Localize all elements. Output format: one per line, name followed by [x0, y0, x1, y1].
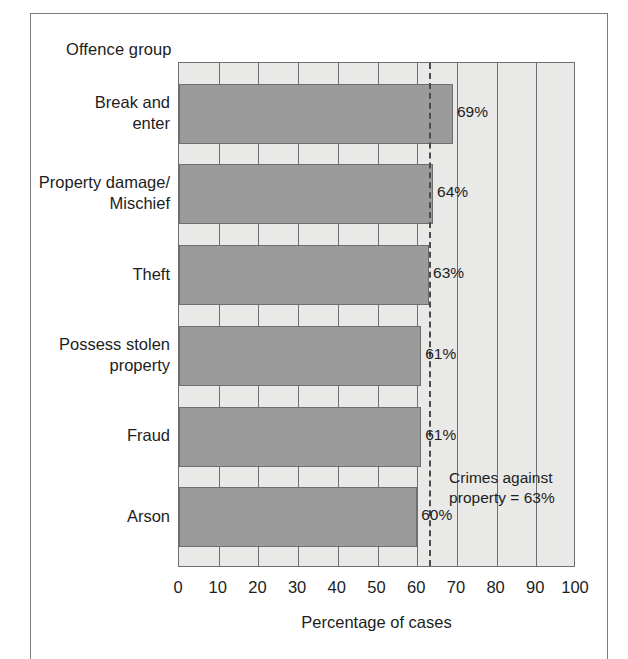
- category-axis-labels: Break andenterProperty damage/MischiefTh…: [18, 62, 170, 567]
- category-label: Theft: [20, 264, 170, 285]
- bar-row: [179, 326, 576, 386]
- category-label-line: Possess stolen: [20, 334, 170, 355]
- bar-value-label: 60%: [421, 506, 452, 524]
- value-axis-tick-label: 50: [367, 578, 385, 597]
- bar-value-label: 69%: [457, 103, 488, 121]
- category-label-line: enter: [20, 113, 170, 134]
- bar-row: [179, 164, 576, 224]
- value-axis-tick-label: 80: [486, 578, 504, 597]
- reference-line-annotation-line1: Crimes against: [449, 468, 555, 488]
- category-label: Fraud: [20, 425, 170, 446]
- category-label-line: Theft: [20, 264, 170, 285]
- category-label: Property damage/Mischief: [20, 172, 170, 214]
- category-label-line: Property damage/: [20, 172, 170, 193]
- value-axis-tick-label: 70: [447, 578, 465, 597]
- bar: [179, 326, 421, 386]
- bar: [179, 84, 453, 144]
- bar-value-label: 63%: [433, 264, 464, 282]
- reference-line-annotation: Crimes against property = 63%: [449, 468, 555, 508]
- bar: [179, 245, 429, 305]
- value-axis-tick-label: 60: [407, 578, 425, 597]
- bar: [179, 407, 421, 467]
- value-axis-tick-label: 0: [173, 578, 182, 597]
- value-axis-title: Percentage of cases: [178, 613, 575, 632]
- bar-chart: Offence group Break andenterProperty dam…: [0, 0, 628, 659]
- category-label: Possess stolenproperty: [20, 334, 170, 376]
- reference-line-annotation-line2: property = 63%: [449, 488, 555, 508]
- category-label: Arson: [20, 506, 170, 527]
- value-axis-tick-label: 40: [328, 578, 346, 597]
- category-label-line: Break and: [20, 92, 170, 113]
- category-label-line: property: [20, 355, 170, 376]
- bar: [179, 164, 433, 224]
- bar-row: [179, 245, 576, 305]
- value-axis-tick-label: 30: [288, 578, 306, 597]
- bar-value-label: 61%: [425, 345, 456, 363]
- category-axis-title: Offence group: [66, 40, 172, 59]
- bar-value-label: 64%: [437, 183, 468, 201]
- reference-line-dashed: [429, 63, 431, 566]
- value-axis-tick-label: 20: [248, 578, 266, 597]
- bar-value-label: 61%: [425, 426, 456, 444]
- value-axis-tick-label: 10: [209, 578, 227, 597]
- category-label-line: Arson: [20, 506, 170, 527]
- bar: [179, 487, 417, 547]
- bar-row: [179, 407, 576, 467]
- category-label: Break andenter: [20, 92, 170, 134]
- category-label-line: Mischief: [20, 193, 170, 214]
- value-axis-tick-labels: 0102030405060708090100: [178, 578, 575, 602]
- bar-row: [179, 84, 576, 144]
- value-axis-tick-label: 100: [561, 578, 589, 597]
- value-axis-tick-label: 90: [526, 578, 544, 597]
- category-label-line: Fraud: [20, 425, 170, 446]
